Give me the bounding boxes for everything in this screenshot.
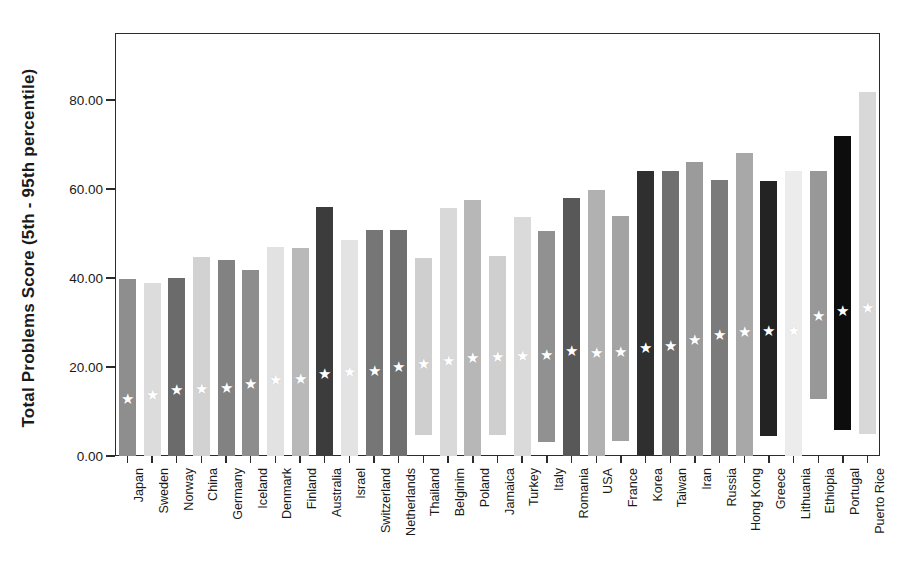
x-tick-mark [768,456,769,463]
y-tick-mark [106,188,115,190]
x-tick-label: Russia [725,468,739,507]
bar [366,230,383,456]
bar [218,260,235,456]
x-tick-mark [176,456,177,463]
x-tick-label: Thailand [428,468,442,516]
x-tick-mark [521,456,522,463]
bar [193,257,210,456]
bar [489,256,506,435]
bar [637,171,654,456]
x-tick-label: Ethiopia [823,468,837,514]
x-tick-label: Netherlands [404,468,418,536]
y-tick-mark [106,455,115,457]
x-tick-label: Hong Kong [749,468,763,531]
x-tick-mark [546,456,547,463]
bar [834,136,851,430]
bar [612,216,629,441]
bar [390,230,407,456]
bar [440,208,457,456]
x-tick-label: Lithuania [799,468,813,519]
x-tick-label: Puerto Rice [873,468,887,534]
x-tick-label: Switzerland [379,468,393,533]
x-tick-label: Greece [774,468,788,509]
y-tick-label: 80.00 [69,93,103,108]
x-tick-mark [225,456,226,463]
x-tick-mark [373,456,374,463]
x-tick-mark [694,456,695,463]
y-tick-mark [106,366,115,368]
x-tick-mark [620,456,621,463]
y-tick-label: 0.00 [77,449,103,464]
bar [538,231,555,442]
y-tick-mark [106,99,115,101]
x-tick-label: USA [601,468,615,494]
x-tick-mark [719,456,720,463]
x-tick-mark [349,456,350,463]
bar [785,171,802,456]
y-tick-label: 40.00 [69,271,103,286]
x-tick-label: Korea [651,468,665,502]
x-tick-label: Iran [700,468,714,490]
x-tick-label: Finland [305,468,319,509]
x-tick-label: Italy [552,468,566,491]
x-tick-mark [793,456,794,463]
x-tick-label: Israel [354,468,368,499]
x-tick-mark [571,456,572,463]
x-tick-label: France [626,468,640,507]
x-tick-label: Denmark [280,468,294,519]
x-tick-label: Germany [231,468,245,520]
y-tick-label: 20.00 [69,360,103,375]
y-axis-title: Total Problems Score (5th - 95th percent… [19,33,39,463]
bar [316,207,333,456]
x-tick-mark [398,456,399,463]
x-tick-label: Australia [330,468,344,517]
x-tick-mark [423,456,424,463]
bar [588,190,605,456]
x-tick-mark [201,456,202,463]
y-tick-mark [106,277,115,279]
x-tick-mark [151,456,152,463]
bar [563,198,580,456]
x-tick-mark [744,456,745,463]
x-tick-label: Romania [577,468,591,518]
bar [760,181,777,436]
bar [267,247,284,456]
bar [168,278,185,456]
x-tick-mark [324,456,325,463]
x-tick-label: Portugal [848,468,862,515]
x-tick-mark [447,456,448,463]
bar [242,270,259,456]
x-tick-label: Iceland [256,468,270,509]
bar-series-layer: ★★★★★★★★★★★★★★★★★★★★★★★★★★★★★★★ [115,33,880,456]
bar [810,171,827,399]
y-tick-label: 60.00 [69,182,103,197]
bar [686,162,703,456]
x-tick-mark [818,456,819,463]
x-tick-label: Sweden [157,468,171,514]
x-tick-label: Belginim [453,468,467,516]
bar [415,258,432,435]
x-tick-mark [127,456,128,463]
bar [341,240,358,456]
chart-figure: Total Problems Score (5th - 95th percent… [0,0,904,583]
x-tick-label: Norway [182,468,196,511]
x-tick-label: Japan [132,468,146,502]
bar [292,248,309,456]
x-tick-mark [275,456,276,463]
x-tick-label: Poland [478,468,492,507]
x-tick-label: Taiwan [675,468,689,507]
bar [662,171,679,456]
x-tick-mark [596,456,597,463]
bar [711,180,728,456]
bar [736,153,753,456]
x-tick-label: China [206,468,220,501]
x-tick-mark [645,456,646,463]
bar [119,279,136,456]
x-tick-mark [299,456,300,463]
x-tick-label: Jamaica [503,468,517,515]
bar [144,283,161,456]
x-tick-mark [497,456,498,463]
bar [859,92,876,434]
x-tick-mark [472,456,473,463]
bar [464,200,481,456]
